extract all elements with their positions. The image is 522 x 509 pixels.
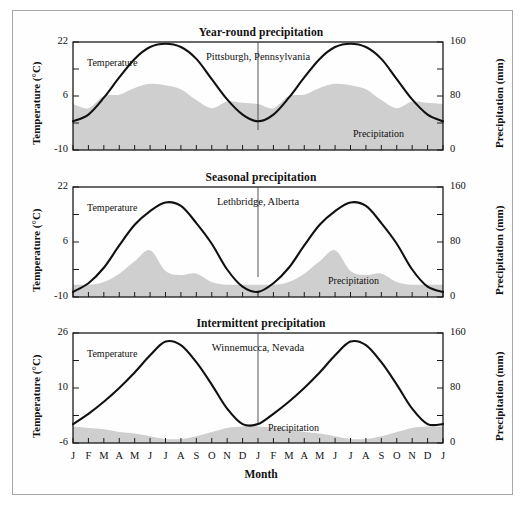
precipitation-series-label: Precipitation [268, 422, 319, 433]
month-label: J [251, 450, 265, 461]
month-label: J [344, 450, 358, 461]
month-label: A [174, 450, 188, 461]
month-label: S [374, 450, 388, 461]
month-label: A [112, 450, 126, 461]
month-label: J [66, 450, 80, 461]
month-label: J [436, 450, 450, 461]
month-label: M [282, 450, 296, 461]
month-label: M [128, 450, 142, 461]
plot-area-intermittent: Winnemucca, NevadaTemperaturePrecipitati… [0, 0, 522, 509]
x-axis-title: Month [0, 468, 522, 480]
month-label: A [297, 450, 311, 461]
month-label: F [81, 450, 95, 461]
month-label: M [97, 450, 111, 461]
month-label: J [143, 450, 157, 461]
month-label: J [328, 450, 342, 461]
month-label: O [205, 450, 219, 461]
month-label: O [390, 450, 404, 461]
month-label: N [220, 450, 234, 461]
month-label: D [236, 450, 250, 461]
month-label: S [189, 450, 203, 461]
place-label: Winnemucca, Nevada [212, 342, 305, 353]
month-label: D [421, 450, 435, 461]
month-label: M [313, 450, 327, 461]
temperature-series-label: Temperature [87, 348, 138, 359]
month-label: A [359, 450, 373, 461]
month-label: N [405, 450, 419, 461]
month-label: J [159, 450, 173, 461]
month-label: F [266, 450, 280, 461]
